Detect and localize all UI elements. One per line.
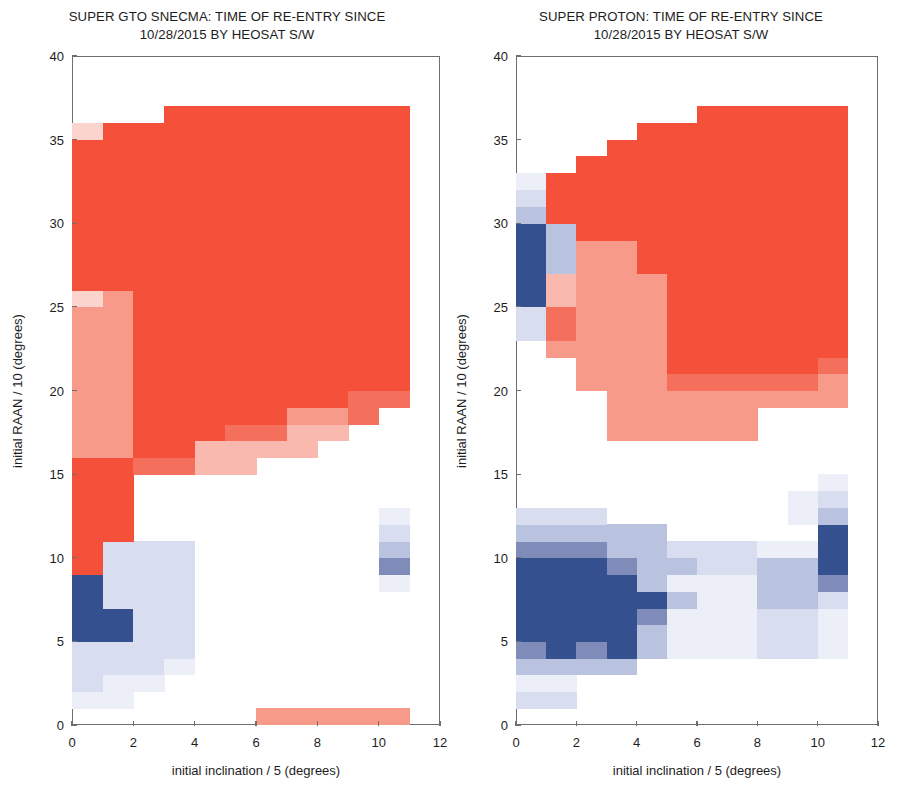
y-axis-tick: [516, 724, 521, 725]
heatmap-cell: [72, 156, 410, 173]
y-axis-tick: [72, 55, 77, 56]
heatmap-cell: [516, 257, 547, 274]
y-axis-tick: [516, 139, 521, 140]
heatmap-cell: [757, 541, 818, 558]
heatmap-cell: [576, 324, 667, 341]
heatmap-cell: [103, 591, 196, 608]
heatmap-cell: [72, 558, 103, 575]
heatmap-cell: [72, 608, 134, 625]
heatmap-cell: [133, 290, 410, 307]
heatmap-cell: [637, 574, 668, 591]
heatmap-cell: [576, 658, 637, 675]
y-axis-tick-label: 40: [470, 49, 508, 64]
heatmap-cell: [788, 508, 819, 525]
heatmap-cell: [516, 675, 577, 692]
heatmap-cell: [72, 591, 103, 608]
heatmap-cell: [133, 407, 287, 424]
heatmap-cell: [607, 140, 849, 157]
y-axis-tick-label: 10: [470, 550, 508, 565]
heatmap-cell: [637, 123, 849, 140]
heatmap-cell: [516, 190, 547, 207]
heatmap-cell: [516, 692, 577, 709]
heatmap-cell: [72, 257, 410, 274]
heatmap-cell: [818, 625, 849, 642]
heatmap-cell: [818, 591, 849, 608]
y-axis-tick-label: 20: [26, 383, 64, 398]
y-axis-tick: [72, 139, 77, 140]
y-axis-tick-label: 25: [470, 299, 508, 314]
heatmap-cell: [576, 340, 667, 357]
heatmap-cell: [757, 641, 818, 658]
heatmap-cell: [607, 541, 668, 558]
y-axis-tick-label: 35: [26, 132, 64, 147]
heatmap-cell: [607, 391, 849, 408]
heatmap-cell: [757, 608, 818, 625]
heatmap-cell: [72, 173, 410, 190]
heatmap-cell: [516, 324, 547, 341]
heatmap-cell: [164, 658, 195, 675]
heatmap-cell: [576, 240, 637, 257]
y-axis-tick-label: 15: [26, 467, 64, 482]
heatmap-cell: [379, 524, 410, 541]
y-axis-tick-label: 5: [470, 634, 508, 649]
heatmap-cell: [546, 240, 577, 257]
heatmap-cell: [546, 641, 577, 658]
x-axis-tick: [877, 721, 878, 726]
x-axis-tick: [378, 721, 379, 726]
heatmap-cell: [607, 524, 668, 541]
heatmap-cell: [667, 541, 758, 558]
heatmap-cell: [133, 608, 195, 625]
heatmap-cell: [72, 491, 134, 508]
x-axis-tick-label: 4: [633, 735, 640, 750]
heatmap-cell: [516, 207, 547, 224]
heatmap-cell: [757, 625, 818, 642]
y-axis-tick: [72, 724, 77, 725]
heatmap-cell: [133, 374, 410, 391]
heatmap-cell: [133, 625, 195, 642]
heatmap-cell: [697, 106, 848, 123]
y-axis-title-left: initial RAAN / 10 (degrees): [10, 314, 25, 468]
x-axis-line-top: [72, 56, 440, 57]
heatmap-cell: [133, 340, 410, 357]
x-axis-tick-label: 0: [68, 735, 75, 750]
y-axis-tick: [516, 641, 521, 642]
heatmap-cell: [103, 558, 196, 575]
heatmap-cell: [667, 608, 758, 625]
heatmap-cell: [225, 424, 287, 441]
panel-right: SUPER PROTON: TIME OF RE-ENTRY SINCE 10/…: [454, 0, 908, 800]
heatmap-cell: [348, 391, 410, 408]
x-axis-tick: [71, 721, 72, 726]
y-axis-tick: [72, 223, 77, 224]
heatmap-cell: [72, 541, 103, 558]
heatmap-cell: [516, 574, 637, 591]
heatmap-cell: [818, 608, 849, 625]
y-axis-tick-label: 10: [26, 550, 64, 565]
panel-title-right: SUPER PROTON: TIME OF RE-ENTRY SINCE 10/…: [454, 8, 908, 44]
x-axis-tick: [696, 721, 697, 726]
heatmap-cell: [818, 641, 849, 658]
heatmap-cell: [72, 240, 410, 257]
heatmap-cell: [697, 591, 758, 608]
heatmap-cell: [72, 391, 134, 408]
heatmap-cell: [256, 708, 410, 725]
y-axis-tick-label: 30: [470, 216, 508, 231]
heatmap-cell: [516, 223, 547, 240]
x-axis-tick-label: 10: [810, 735, 824, 750]
heatmap-cell: [818, 357, 849, 374]
heatmap-cell: [667, 290, 849, 307]
heatmap-cell: [637, 240, 849, 257]
heatmap-cell: [72, 207, 410, 224]
x-axis-tick-label: 4: [191, 735, 198, 750]
panel-left: SUPER GTO SNECMA: TIME OF RE-ENTRY SINCE…: [0, 0, 454, 800]
heatmap-cell: [72, 474, 134, 491]
x-axis-tick: [133, 721, 134, 726]
heatmap-cell: [133, 424, 226, 441]
heatmap-cell: [379, 558, 410, 575]
heatmap-cell: [516, 273, 547, 290]
x-axis-tick: [757, 721, 758, 726]
heatmap-cell: [546, 340, 577, 357]
x-axis-tick: [317, 721, 318, 726]
panel-title-left: SUPER GTO SNECMA: TIME OF RE-ENTRY SINCE…: [0, 8, 454, 44]
x-axis-tick: [439, 721, 440, 726]
heatmap-cell: [164, 106, 410, 123]
